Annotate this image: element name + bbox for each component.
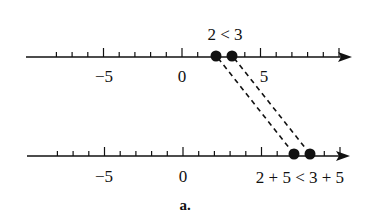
top-inequality-label: 2 < 3 bbox=[207, 25, 242, 44]
number-line-diagram: −5 0 5 2 < 3 −5 0 2 + 5 < 3 + 5 a. bbox=[0, 0, 386, 215]
point-3 bbox=[227, 51, 238, 62]
figure-caption: a. bbox=[179, 197, 191, 213]
top-number-line: −5 0 5 2 < 3 bbox=[26, 25, 352, 86]
connector-3-to-8 bbox=[234, 58, 310, 154]
point-7 bbox=[289, 149, 300, 160]
tick-label-5: 5 bbox=[260, 67, 269, 86]
point-2 bbox=[211, 51, 222, 62]
tick-label-0: 0 bbox=[179, 167, 188, 186]
tick-label-neg5: −5 bbox=[95, 167, 113, 186]
tick-label-0: 0 bbox=[178, 67, 187, 86]
bottom-number-line: −5 0 2 + 5 < 3 + 5 bbox=[27, 147, 350, 187]
bottom-inequality-label: 2 + 5 < 3 + 5 bbox=[256, 168, 344, 187]
connector-2-to-7 bbox=[218, 58, 294, 154]
tick-label-neg5: −5 bbox=[95, 67, 113, 86]
point-8 bbox=[305, 149, 316, 160]
